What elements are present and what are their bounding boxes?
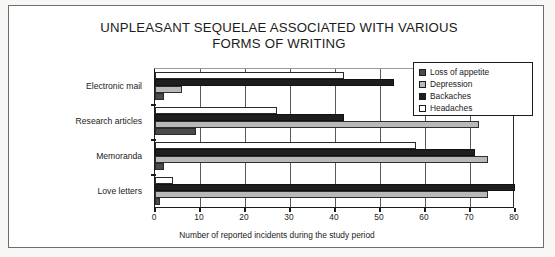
bar-research-articles-backaches xyxy=(155,114,344,121)
bar-research-articles-depression xyxy=(155,121,479,128)
bar-love-letters-backaches xyxy=(155,184,515,191)
x-tick-label-50: 50 xyxy=(374,212,383,222)
x-tick-label-80: 80 xyxy=(509,212,518,222)
chart-legend: Loss of appetiteDepressionBackachesHeada… xyxy=(413,62,533,116)
value-axis: 01020304050607080 xyxy=(154,208,514,224)
category-tick xyxy=(151,139,156,141)
screenshot-root: UNPLEASANT SEQUELAE ASSOCIATED WITH VARI… xyxy=(0,0,555,257)
category-tick xyxy=(151,174,156,176)
category-label-love-letters: Love letters xyxy=(66,186,142,196)
bar-electronic-mail-depression xyxy=(155,86,182,93)
page-title: UNPLEASANT SEQUELAE ASSOCIATED WITH VARI… xyxy=(69,20,489,52)
category-label-memoranda: Memoranda xyxy=(66,151,142,161)
bar-research-articles-headaches xyxy=(155,107,277,114)
bar-electronic-mail-headaches xyxy=(155,72,344,79)
bar-memoranda-depression xyxy=(155,156,488,163)
legend-label: Headaches xyxy=(430,103,472,113)
bar-research-articles-loss-of-appetite xyxy=(155,128,196,135)
x-tick-label-10: 10 xyxy=(194,212,203,222)
bar-love-letters-depression xyxy=(155,191,488,198)
chart-title-line-1: UNPLEASANT SEQUELAE ASSOCIATED WITH VARI… xyxy=(69,20,489,36)
legend-swatch-icon xyxy=(419,69,426,76)
x-axis-title: Number of reported incidents during the … xyxy=(9,230,545,240)
legend-swatch-icon xyxy=(419,81,426,88)
legend-item-loss-of-appetite: Loss of appetite xyxy=(419,66,532,78)
category-tick xyxy=(151,104,156,106)
bar-electronic-mail-loss-of-appetite xyxy=(155,93,164,100)
legend-label: Loss of appetite xyxy=(430,67,489,77)
legend-swatch-icon xyxy=(419,105,426,112)
category-axis-labels: Electronic mailResearch articlesMemorand… xyxy=(66,68,142,208)
bar-love-letters-headaches xyxy=(155,177,173,184)
legend-item-backaches: Backaches xyxy=(419,90,532,102)
chart-title-line-2: FORMS OF WRITING xyxy=(69,36,489,52)
bar-memoranda-loss-of-appetite xyxy=(155,163,164,170)
legend-item-depression: Depression xyxy=(419,78,532,90)
x-tick-label-20: 20 xyxy=(239,212,248,222)
x-tick-label-0: 0 xyxy=(152,212,157,222)
legend-swatch-icon xyxy=(419,93,426,100)
x-tick-label-70: 70 xyxy=(464,212,473,222)
bar-electronic-mail-backaches xyxy=(155,79,394,86)
legend-item-headaches: Headaches xyxy=(419,102,532,114)
x-tick-label-30: 30 xyxy=(284,212,293,222)
legend-label: Depression xyxy=(430,79,472,89)
category-label-research-articles: Research articles xyxy=(66,116,142,126)
chart-frame: UNPLEASANT SEQUELAE ASSOCIATED WITH VARI… xyxy=(8,5,544,248)
bar-memoranda-headaches xyxy=(155,142,416,149)
legend-label: Backaches xyxy=(430,91,471,101)
category-label-electronic-mail: Electronic mail xyxy=(66,81,142,91)
bar-love-letters-loss-of-appetite xyxy=(155,198,160,205)
bar-memoranda-backaches xyxy=(155,149,475,156)
x-tick-label-40: 40 xyxy=(329,212,338,222)
x-tick-label-60: 60 xyxy=(419,212,428,222)
